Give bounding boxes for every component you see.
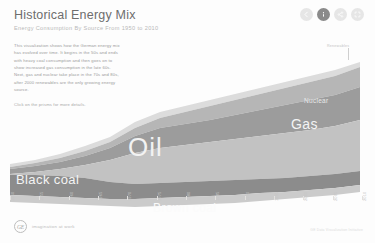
arrow-left-icon — [303, 11, 310, 18]
annotation-renewables: Renewables — [327, 44, 349, 48]
x-axis-tick-label: 1975 — [157, 192, 162, 201]
x-axis-tick-label: 1960 — [69, 192, 74, 201]
x-axis-tick-label: 1985 — [215, 192, 220, 201]
nav-share-button[interactable] — [334, 8, 347, 21]
intro-description: This visualization shows how the German … — [14, 42, 122, 93]
nav-back-button[interactable] — [300, 8, 313, 21]
page-footer: GE imagination at work GE Data Visualiza… — [0, 215, 375, 243]
intro-panel: This visualization shows how the German … — [14, 42, 122, 109]
nav-fullscreen-button[interactable] — [351, 8, 364, 21]
info-icon — [320, 11, 327, 18]
nav-info-button[interactable] — [317, 8, 330, 21]
ge-tagline: imagination at work — [32, 224, 75, 229]
footer-credit: GE Data Visualization Initiative — [310, 228, 363, 232]
x-axis-tick-label: 1965 — [98, 192, 103, 201]
x-axis-tick-label: 2005 — [333, 192, 338, 201]
ge-logo[interactable]: GE imagination at work — [14, 220, 75, 233]
page-subtitle: Energy Consumption By Source From 1950 t… — [14, 25, 159, 31]
intro-cta[interactable]: Click on the prisms for more details. — [14, 102, 122, 109]
x-axis-tick-label: 1955 — [39, 192, 44, 201]
ge-monogram-icon: GE — [14, 220, 27, 233]
x-axis-tick-label: 2010 — [362, 192, 367, 201]
x-axis-tick-label: 1990 — [245, 192, 250, 201]
page-header: Historical Energy Mix Energy Consumption… — [0, 0, 375, 38]
x-axis-tick-label: 1995 — [274, 192, 279, 201]
expand-icon — [354, 11, 361, 18]
annotation-leader-line — [348, 48, 349, 60]
energy-mix-visualization: Historical Energy Mix Energy Consumption… — [0, 0, 375, 243]
x-axis-tick-label: 1970 — [127, 192, 132, 201]
page-title: Historical Energy Mix — [14, 8, 136, 22]
x-axis-tick-label: 1980 — [186, 192, 191, 201]
x-axis-tick-label: 2000 — [303, 192, 308, 201]
x-axis-tick-label: 1950 — [10, 192, 15, 201]
share-icon — [337, 11, 344, 18]
nav-button-group — [300, 8, 364, 21]
